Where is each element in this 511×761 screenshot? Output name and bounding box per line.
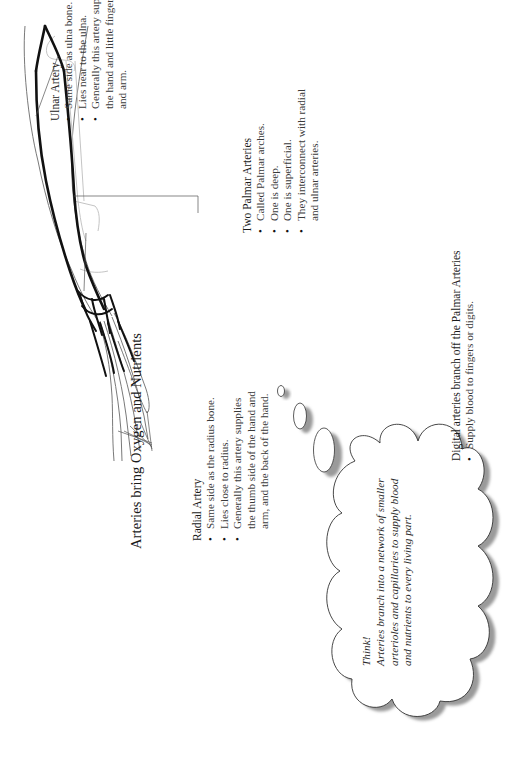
radial-artery-heading: Radial Artery <box>190 351 204 541</box>
palmar-arteries-heading: Two Palmar Arteries <box>240 33 254 233</box>
palmar-arteries-bullet: They interconnect with radial and ulnar … <box>295 83 322 233</box>
ulnar-artery-block: Ulnar Artery Same side as ulna bone. Lie… <box>48 0 130 121</box>
ulnar-artery-bullet: Same side as ulna bone. <box>62 0 76 121</box>
thought-bubble-trail-icon <box>278 386 343 478</box>
radial-artery-block: Radial Artery Same side as the radius bo… <box>190 351 272 541</box>
palmar-arteries-bullet: One is superficial. <box>281 83 295 233</box>
rotated-document-page: Arteries bring Oxygen and Nutrients Radi… <box>0 0 511 761</box>
ulnar-artery-bullet: Generally this artery supplies the palm … <box>89 0 130 121</box>
page-title: Arteries bring Oxygen and Nutrients <box>128 333 145 549</box>
ulnar-artery-heading: Ulnar Artery <box>48 0 62 121</box>
think-label: Think! <box>360 461 374 666</box>
think-body: Arteries branch into a network of smalle… <box>374 461 415 666</box>
palmar-arteries-bullet: Called Palmar arches. <box>254 83 268 233</box>
ulnar-artery-bullet: Lies near to the ulna. <box>76 0 90 121</box>
radial-artery-bullet: Lies close to radius. <box>218 391 232 541</box>
palmar-arteries-bullet: One is deep. <box>268 83 282 233</box>
digital-arteries-bullet: Supply blood to fingers or digits. <box>463 141 477 461</box>
palmar-arches-icon <box>78 291 134 376</box>
digital-arteries-heading: Digital arteries branch off the Palmar A… <box>449 141 463 461</box>
radial-artery-bullet: Same side as the radius bone. <box>204 391 218 541</box>
think-bubble-text: Think! Arteries branch into a network of… <box>360 461 415 666</box>
digital-arteries-block: Digital arteries branch off the Palmar A… <box>449 141 477 461</box>
radial-artery-bullet: Generally this artery supplies the thumb… <box>231 391 272 541</box>
palmar-arteries-block: Two Palmar Arteries Called Palmar arches… <box>240 33 322 233</box>
